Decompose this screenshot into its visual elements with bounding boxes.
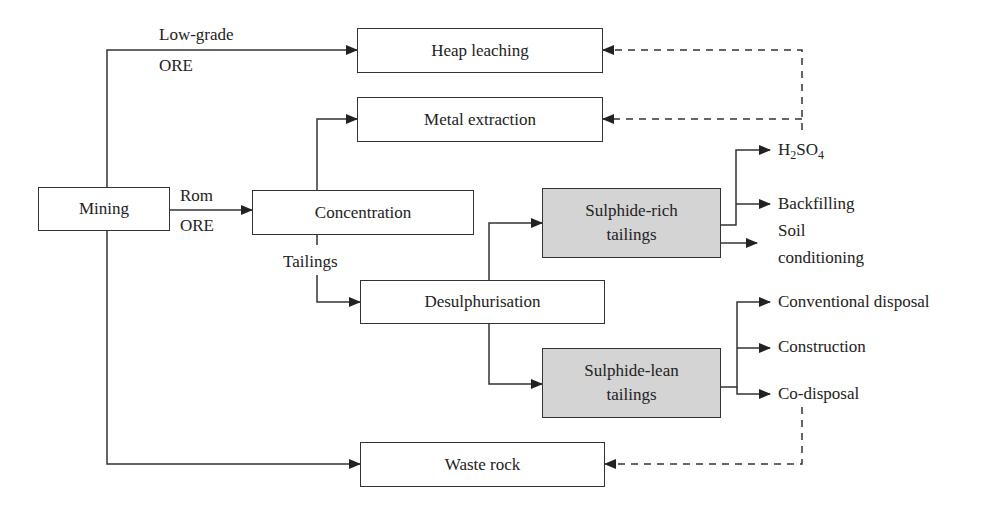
node-sulphide-lean-label-2: tailings <box>606 383 656 407</box>
edge-label-rom-ore: ORE <box>180 215 214 237</box>
node-metal-extraction: Metal extraction <box>357 97 603 142</box>
node-desulphurisation-label: Desulphurisation <box>424 290 540 314</box>
arrow-tailings-to-desulphurisation <box>317 275 360 302</box>
arrow-desulphurisation-to-sulphide-rich <box>489 223 542 280</box>
output-conventional-disposal: Conventional disposal <box>778 291 930 313</box>
arrow-desulphurisation-to-sulphide-lean <box>489 324 542 384</box>
output-construction: Construction <box>778 336 866 358</box>
h2so4-sub-4: 4 <box>818 148 824 162</box>
arrow-concentration-to-metal-extraction <box>317 119 357 190</box>
node-waste-rock-label: Waste rock <box>445 453 521 477</box>
arrow-to-h2so4 <box>721 150 770 225</box>
arrow-to-conventional-disposal <box>721 302 770 387</box>
h2so4-so: SO <box>796 140 818 159</box>
node-heap-leaching: Heap leaching <box>357 28 603 73</box>
node-waste-rock: Waste rock <box>360 442 605 487</box>
output-soil-line2: conditioning <box>778 247 864 269</box>
edge-label-low-grade-ore: ORE <box>159 55 193 77</box>
dashed-arrow-to-heap-leaching <box>603 50 802 130</box>
node-sulphide-lean-tailings: Sulphide-lean tailings <box>542 348 721 418</box>
node-concentration: Concentration <box>252 190 474 235</box>
node-desulphurisation: Desulphurisation <box>360 280 605 324</box>
output-soil-line1: Soil <box>778 220 805 242</box>
node-sulphide-lean-label-1: Sulphide-lean <box>584 359 678 383</box>
node-sulphide-rich-label-2: tailings <box>606 223 656 247</box>
node-sulphide-rich-label-1: Sulphide-rich <box>585 199 678 223</box>
edge-label-low-grade: Low-grade <box>159 24 234 46</box>
node-mining: Mining <box>38 187 170 231</box>
h2so4-h: H <box>778 140 790 159</box>
arrow-to-co-disposal <box>737 387 770 394</box>
node-concentration-label: Concentration <box>315 201 411 225</box>
node-heap-leaching-label: Heap leaching <box>431 39 529 63</box>
output-co-disposal: Co-disposal <box>778 383 859 405</box>
node-sulphide-rich-tailings: Sulphide-rich tailings <box>542 188 721 258</box>
output-h2so4: H2SO4 <box>778 139 824 166</box>
node-mining-label: Mining <box>79 197 129 221</box>
node-metal-extraction-label: Metal extraction <box>424 108 536 132</box>
edge-label-rom: Rom <box>180 185 213 207</box>
edge-label-tailings: Tailings <box>283 251 338 273</box>
output-backfilling: Backfilling <box>778 193 854 215</box>
